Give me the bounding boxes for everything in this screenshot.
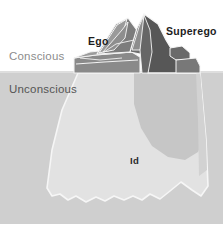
- label-ego: Ego: [88, 36, 109, 47]
- peak-superego-step: [176, 58, 200, 73]
- label-superego: Superego: [166, 26, 217, 37]
- frame-bottom: [0, 224, 223, 233]
- label-conscious: Conscious: [9, 51, 65, 63]
- label-id: Id: [130, 156, 139, 166]
- iceberg-diagram: Conscious Unconscious Ego Superego Id: [0, 0, 223, 233]
- label-unconscious: Unconscious: [9, 84, 77, 96]
